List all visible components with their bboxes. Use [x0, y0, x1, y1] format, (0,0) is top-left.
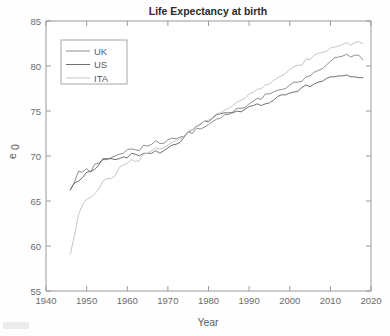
y-tick-label: 65: [30, 196, 41, 207]
chart-figure: 194019501960197019801990200020102020 556…: [0, 0, 390, 336]
y-tick-label: 55: [30, 286, 41, 297]
y-axis-title-subscript: 0: [9, 144, 21, 150]
x-tick-label: 2000: [279, 295, 300, 306]
x-tick-label: 2010: [320, 295, 341, 306]
legend-label-uk[interactable]: UK: [94, 46, 108, 57]
y-tick-label: 70: [30, 151, 41, 162]
y-tick-label: 80: [30, 61, 41, 72]
y-axis-title: e 0: [6, 144, 21, 159]
x-tick-label: 1970: [157, 295, 178, 306]
life-expectancy-line-chart: 194019501960197019801990200020102020 556…: [0, 0, 390, 336]
x-tick-label: 2020: [360, 295, 381, 306]
y-axis-title-base: e: [6, 153, 18, 159]
x-axis-title: Year: [197, 316, 219, 328]
x-tick-label: 1990: [239, 295, 260, 306]
x-tick-label: 1960: [117, 295, 138, 306]
y-tick-label: 85: [30, 16, 41, 27]
x-tick-label: 1940: [35, 295, 56, 306]
y-tick-label: 60: [30, 241, 41, 252]
scan-artifact: [3, 322, 29, 329]
page-title: Life Expectancy at birth: [149, 5, 267, 17]
y-tick-label: 75: [30, 106, 41, 117]
x-tick-label: 1950: [76, 295, 97, 306]
legend-label-us[interactable]: US: [94, 59, 107, 70]
x-tick-label: 1980: [198, 295, 219, 306]
chart-legend[interactable]: UKUSITA: [61, 40, 127, 84]
legend-label-ita[interactable]: ITA: [94, 73, 109, 84]
